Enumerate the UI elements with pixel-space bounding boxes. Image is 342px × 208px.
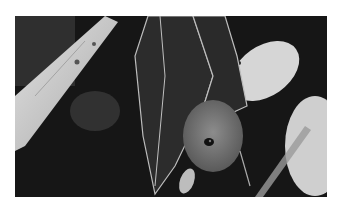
bat-eye bbox=[204, 138, 214, 146]
bat-illustration bbox=[15, 16, 327, 197]
bat-photo bbox=[15, 16, 327, 197]
bat-head bbox=[183, 100, 243, 172]
